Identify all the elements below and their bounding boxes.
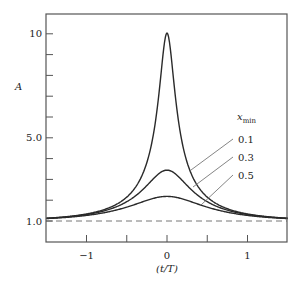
leader-line-0-5 (201, 175, 233, 205)
leader-line-0-1 (191, 139, 233, 170)
x-axis-ticks: −101 (79, 235, 251, 261)
y-axis-label: A (14, 81, 22, 92)
curves-group (46, 33, 288, 219)
plot-frame (46, 14, 287, 242)
y-tick-label: 5.0 (26, 132, 42, 143)
x-tick-label: 1 (244, 250, 250, 261)
legend-label-0-5: 0.5 (238, 170, 254, 181)
x-tick-label: 0 (164, 250, 170, 261)
legend-title: xmin (237, 111, 257, 125)
y-tick-label: 10 (29, 28, 42, 39)
chart-canvas: 1.05.010 −101 A (t/T) xmin 0.10.30.5 (0, 0, 304, 285)
leader-lines: 0.10.30.5 (191, 134, 254, 205)
curve-xmin-0-1 (46, 33, 288, 218)
leader-line-0-3 (193, 157, 233, 187)
legend-title-subscript: min (243, 117, 257, 125)
x-tick-label: −1 (79, 250, 94, 261)
x-axis-label: (t/T) (156, 263, 178, 274)
curve-xmin-0-5 (46, 196, 288, 218)
y-axis-ticks: 1.05.010 (26, 28, 53, 226)
y-tick-label: 1.0 (26, 216, 42, 227)
legend-label-0-3: 0.3 (238, 152, 254, 163)
legend-label-0-1: 0.1 (238, 134, 254, 145)
